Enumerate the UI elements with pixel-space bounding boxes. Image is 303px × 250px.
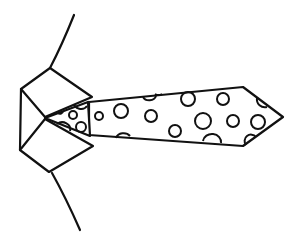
illustration-canvas — [0, 0, 303, 250]
tie-blade — [89, 87, 283, 146]
necktie-illustration — [0, 0, 303, 250]
neckline-top — [50, 15, 74, 68]
shirt-left-edge — [20, 89, 21, 150]
neckline-bottom — [52, 173, 80, 230]
